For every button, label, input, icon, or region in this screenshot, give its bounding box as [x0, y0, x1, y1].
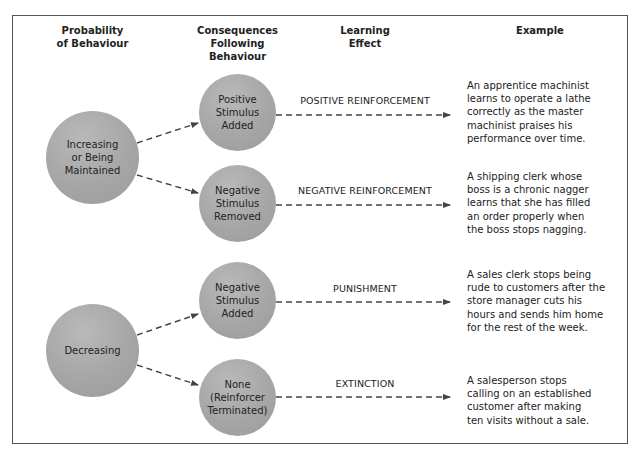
- node-negative-stimulus-removed: Negative Stimulus Removed: [199, 165, 276, 242]
- node-none-reinforcer-terminated: None (Reinforcer Terminated): [199, 359, 276, 436]
- effect-negative-reinforcement: NEGATIVE REINFORCEMENT: [288, 185, 442, 196]
- example-extinction: A salesperson stops calling on an establ…: [467, 374, 591, 427]
- node-decreasing: Decreasing: [46, 304, 139, 397]
- example-negative-reinforcement: A shipping clerk whose boss is a chronic…: [467, 170, 590, 236]
- node-increasing: Increasing or Being Maintained: [46, 111, 139, 204]
- effect-positive-reinforcement: POSITIVE REINFORCEMENT: [290, 95, 440, 106]
- example-positive-reinforcement: An apprentice machinist learns to operat…: [467, 79, 591, 145]
- node-positive-stimulus-added: Positive Stimulus Added: [199, 74, 276, 151]
- effect-punishment: PUNISHMENT: [290, 283, 440, 294]
- node-negative-stimulus-added: Negative Stimulus Added: [199, 262, 276, 339]
- example-punishment: A sales clerk stops being rude to custom…: [467, 268, 605, 334]
- effect-extinction: EXTINCTION: [290, 378, 440, 389]
